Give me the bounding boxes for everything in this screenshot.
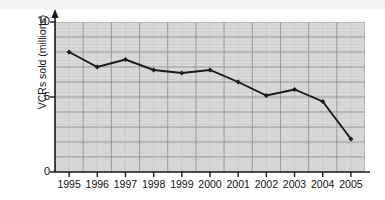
x-axis-tick-label: 2005: [334, 178, 368, 190]
data-point-marker: [123, 57, 128, 62]
data-point-marker: [292, 87, 297, 92]
plot-area: [55, 22, 365, 172]
x-axis-tickmarks: [69, 172, 351, 177]
scan-artifact-band: [0, 0, 385, 9]
data-point-marker: [179, 70, 184, 75]
data-point-marker: [151, 67, 156, 72]
y-axis-tick-label: 0: [28, 165, 50, 177]
y-axis-tick-label: 5: [28, 90, 50, 102]
y-axis-tick-label: 10: [28, 15, 50, 27]
y-axis-arrow-icon: [51, 9, 58, 18]
plot-canvas: [55, 22, 365, 172]
y-axis-tick-labels: 10 5 0: [22, 0, 50, 200]
line-chart-figure: VCRs sold (millions) 10 5 0 199519961997…: [0, 0, 385, 200]
data-point-marker: [207, 67, 212, 72]
